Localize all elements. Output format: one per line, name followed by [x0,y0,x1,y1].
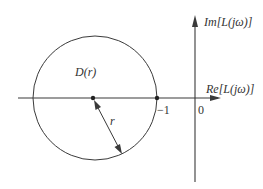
imag-axis-arrow-icon [192,15,198,27]
radius-arrow-head-end-icon [115,144,123,154]
disk-label: D(r) [74,65,96,79]
radius-label: r [110,114,115,128]
radius-arrow-head-start-icon [94,100,101,110]
disk-center-point [91,96,95,100]
nyquist-disk-diagram: Im[L(jω)] Re[L(jω)] 0 −1 D(r) r [0,0,263,189]
radius-arrow [94,100,122,154]
minus-one-label: −1 [157,103,170,117]
minus-one-point [155,96,159,100]
real-axis-label: Re[L(jω)] [205,82,255,96]
imag-axis-label: Im[L(jω)] [203,15,253,29]
real-axis [18,95,221,101]
origin-label: 0 [198,103,204,117]
